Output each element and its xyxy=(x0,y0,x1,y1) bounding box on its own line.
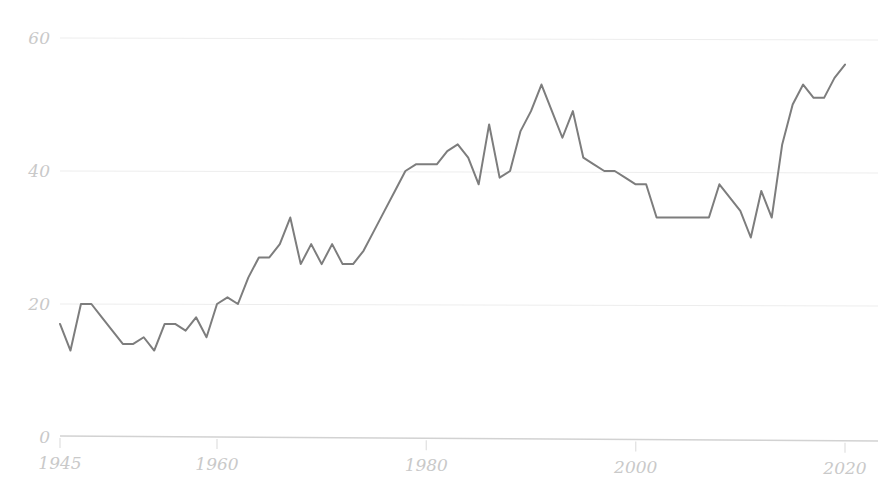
x-axis-group xyxy=(60,436,878,441)
x-tick-label-2020: 2020 xyxy=(822,458,866,478)
x-tick-label-1960: 1960 xyxy=(195,454,238,474)
y-tick-label-20: 20 xyxy=(27,294,50,314)
gridlines-group xyxy=(60,38,878,306)
line-chart: 0204060 19451960198020002020 xyxy=(0,0,891,490)
x-axis-line xyxy=(60,436,878,441)
gridline-40 xyxy=(60,171,878,173)
x-tick-label-1980: 1980 xyxy=(405,455,448,475)
y-tick-label-60: 60 xyxy=(28,28,50,48)
x-tick-label-2000: 2000 xyxy=(613,457,657,477)
y-tick-label-40: 40 xyxy=(27,161,50,181)
gridline-60 xyxy=(60,38,878,40)
x-tick-label-1945: 1945 xyxy=(38,453,81,473)
x-axis-labels-group: 19451960198020002020 xyxy=(38,453,866,478)
data-series-line xyxy=(60,65,845,351)
chart-canvas: 0204060 19451960198020002020 xyxy=(0,0,891,490)
y-tick-label-0: 0 xyxy=(39,427,50,447)
y-axis-labels-group: 0204060 xyxy=(27,28,50,447)
gridline-20 xyxy=(60,304,878,306)
